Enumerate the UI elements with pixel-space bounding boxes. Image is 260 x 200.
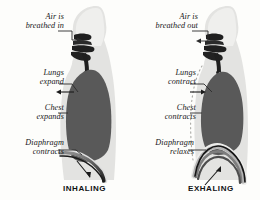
- panel-exhaling: Air is breathed out Lungs contract Chest…: [130, 0, 260, 200]
- caption-inhaling: INHALING: [63, 184, 106, 193]
- panel-inhaling: Air is breathed in Lungs expand Chest ex…: [0, 0, 130, 200]
- label-line-1: Lungs: [175, 68, 196, 77]
- label-air-breathed-in: Air is breathed in: [2, 12, 64, 31]
- label-line-1: Lungs: [43, 68, 64, 77]
- label-line-2: relaxes: [170, 147, 194, 156]
- label-line-1: Diaphragm: [155, 138, 194, 147]
- caption-exhaling: EXHALING: [188, 184, 234, 193]
- label-line-2: breathed out: [155, 21, 198, 30]
- label-line-1: Chest: [177, 103, 196, 112]
- label-line-2: expands: [36, 112, 64, 121]
- label-chest-expands: Chest expands: [4, 103, 64, 122]
- breathing-diagram: Air is breathed in Lungs expand Chest ex…: [0, 0, 260, 200]
- label-line-2: expand: [40, 77, 64, 86]
- label-line-1: Chest: [45, 103, 64, 112]
- label-diaphragm-relaxes: Diaphragm relaxes: [130, 138, 194, 157]
- label-line-1: Air is: [179, 12, 198, 21]
- label-line-1: Air is: [45, 12, 64, 21]
- label-line-2: contracts: [33, 147, 64, 156]
- label-chest-contracts: Chest contracts: [132, 103, 196, 122]
- label-diaphragm-contracts: Diaphragm contracts: [0, 138, 64, 157]
- label-line-1: Diaphragm: [25, 138, 64, 147]
- label-line-2: contract: [168, 77, 196, 86]
- lung-expanded: [66, 70, 111, 162]
- label-lungs-contract: Lungs contract: [134, 68, 196, 87]
- label-line-2: contracts: [165, 112, 196, 121]
- label-lungs-expand: Lungs expand: [4, 68, 64, 87]
- label-line-2: breathed in: [26, 21, 64, 30]
- label-air-breathed-out: Air is breathed out: [132, 12, 198, 31]
